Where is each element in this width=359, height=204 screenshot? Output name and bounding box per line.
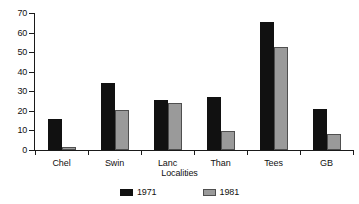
y-axis-tick — [29, 91, 34, 92]
x-axis-label-than: Than — [194, 158, 247, 168]
x-axis-tick — [247, 150, 248, 155]
y-axis-tick — [29, 52, 34, 53]
y-axis-tick — [29, 111, 34, 112]
x-axis-tick — [141, 150, 142, 155]
x-axis-title: Localities — [0, 168, 359, 178]
y-axis-tick — [29, 13, 34, 14]
x-axis-label-gb: GB — [300, 158, 353, 168]
legend-entry-1981: 1981 — [203, 188, 240, 197]
y-axis-tick — [29, 150, 34, 151]
bar-swin-1971 — [101, 83, 115, 150]
y-axis-tick-label: 40 — [8, 68, 27, 77]
y-axis-tick-label: 50 — [8, 48, 27, 57]
bar-chart: 010203040506070 ChelSwinLancThanTeesGB L… — [0, 0, 359, 204]
x-axis-label-tees: Tees — [247, 158, 300, 168]
bar-than-1981 — [221, 131, 235, 150]
y-axis-tick-label: 30 — [8, 87, 27, 96]
legend-label-1971: 1971 — [137, 188, 157, 197]
bar-chel-1971 — [48, 119, 62, 150]
bar-gb-1981 — [327, 134, 341, 150]
y-axis-tick-label: 20 — [8, 107, 27, 116]
x-axis-label-swin: Swin — [88, 158, 141, 168]
bar-tees-1981 — [274, 47, 288, 150]
chart-legend: 19711981 — [0, 186, 359, 198]
bar-tees-1971 — [260, 22, 274, 150]
y-axis-tick — [29, 130, 34, 131]
y-axis-tick-label: 60 — [8, 29, 27, 38]
y-axis-tick-label: 10 — [8, 126, 27, 135]
legend-swatch-icon-1971 — [120, 189, 133, 196]
bar-lanc-1981 — [168, 103, 182, 150]
legend-swatch-icon-1981 — [203, 189, 216, 196]
x-axis-label-lanc: Lanc — [141, 158, 194, 168]
x-axis-label-chel: Chel — [35, 158, 88, 168]
x-axis-tick — [194, 150, 195, 155]
y-axis-tick-label: 70 — [8, 9, 27, 18]
y-axis-tick — [29, 72, 34, 73]
bar-chel-1981 — [62, 147, 76, 150]
bar-swin-1981 — [115, 110, 129, 150]
bar-gb-1971 — [313, 109, 327, 150]
plot-area — [35, 13, 353, 150]
bar-than-1971 — [207, 97, 221, 150]
x-axis-tick — [35, 150, 36, 155]
x-axis-tick — [353, 150, 354, 155]
bar-lanc-1971 — [154, 100, 168, 150]
legend-entry-1971: 1971 — [120, 188, 157, 197]
x-axis-tick — [300, 150, 301, 155]
x-axis-tick — [88, 150, 89, 155]
y-axis-tick-label: 0 — [8, 146, 27, 155]
y-axis-tick — [29, 33, 34, 34]
legend-label-1981: 1981 — [220, 188, 240, 197]
